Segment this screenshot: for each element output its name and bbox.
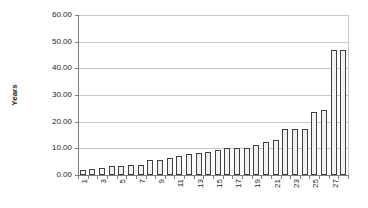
bar xyxy=(176,156,182,175)
bar xyxy=(138,165,144,175)
x-tick-label: 1 xyxy=(79,179,88,183)
bar xyxy=(205,152,211,175)
x-tick-label: 27 xyxy=(330,179,339,188)
y-tick-label: 0.00 xyxy=(30,170,72,180)
x-tick-label: 5 xyxy=(118,179,127,183)
x-tick-label: 23 xyxy=(291,179,300,188)
x-tick-label: 3 xyxy=(99,179,108,183)
bar xyxy=(99,168,105,175)
x-tick-label: 15 xyxy=(214,179,223,188)
gridline xyxy=(78,122,348,123)
x-tick-label: 7 xyxy=(137,179,146,183)
bar xyxy=(253,145,259,175)
bar xyxy=(244,148,250,175)
x-tick-label: 25 xyxy=(311,179,320,188)
bar xyxy=(292,129,298,175)
y-tick-label: 10.00 xyxy=(30,143,72,153)
bar xyxy=(234,148,240,175)
x-tick-label: 19 xyxy=(253,179,262,188)
bar xyxy=(147,160,153,175)
bar xyxy=(321,110,327,175)
bar xyxy=(282,129,288,175)
gridline xyxy=(78,68,348,69)
bar xyxy=(302,129,308,175)
bar xyxy=(340,50,346,175)
gridline xyxy=(78,42,348,43)
y-tick-label: 30.00 xyxy=(30,90,72,100)
y-tick-label: 20.00 xyxy=(30,117,72,127)
bar xyxy=(311,112,317,175)
bar xyxy=(186,154,192,175)
bar xyxy=(128,165,134,175)
bar xyxy=(215,150,221,175)
bar xyxy=(196,153,202,175)
x-tick-label: 17 xyxy=(234,179,243,188)
bar xyxy=(118,166,124,175)
bar xyxy=(263,142,269,175)
y-tick-label: 50.00 xyxy=(30,37,72,47)
x-tick-label: 11 xyxy=(176,179,185,187)
plot-border xyxy=(348,15,349,175)
x-tick-label: 21 xyxy=(272,179,281,188)
bar xyxy=(89,169,95,175)
bar xyxy=(109,166,115,175)
y-axis-title: Years xyxy=(10,84,19,105)
bar xyxy=(157,160,163,175)
bar xyxy=(331,50,337,175)
bar xyxy=(80,170,86,175)
x-tick-mark xyxy=(348,176,349,179)
bar xyxy=(273,140,279,175)
y-tick-label: 40.00 xyxy=(30,63,72,73)
y-axis-line xyxy=(78,15,79,176)
x-tick-label: 9 xyxy=(156,179,165,183)
x-tick-label: 13 xyxy=(195,179,204,188)
bar-chart: Years 0.0010.0020.0030.0040.0050.0060.00… xyxy=(0,0,368,208)
gridline xyxy=(78,95,348,96)
bar xyxy=(167,158,173,175)
bar xyxy=(224,148,230,175)
gridline xyxy=(78,15,348,16)
y-tick-label: 60.00 xyxy=(30,10,72,20)
